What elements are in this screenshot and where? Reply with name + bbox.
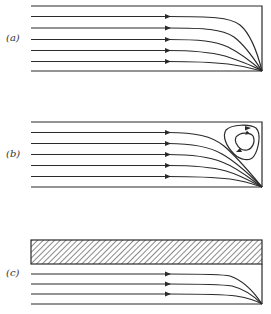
panel-b — [31, 122, 262, 187]
streamline — [31, 274, 262, 304]
panel-a — [31, 6, 262, 71]
panel-a-label: (a) — [6, 32, 20, 43]
arrow-icons — [165, 272, 171, 297]
streamline — [31, 62, 262, 72]
panel-c-label: (c) — [6, 267, 19, 278]
streamline — [31, 51, 262, 72]
streamline — [31, 294, 262, 304]
eddy-inner — [235, 133, 254, 150]
streamline — [31, 28, 262, 71]
arrow-icons — [165, 126, 251, 179]
panel-c — [31, 240, 262, 304]
streamline — [31, 155, 262, 188]
panel-b-label: (b) — [6, 148, 20, 159]
flow-diagram — [0, 0, 271, 314]
hatched-solid-layer — [31, 240, 262, 264]
streamline — [31, 177, 262, 188]
streamline — [31, 17, 262, 72]
streamline — [31, 40, 262, 72]
